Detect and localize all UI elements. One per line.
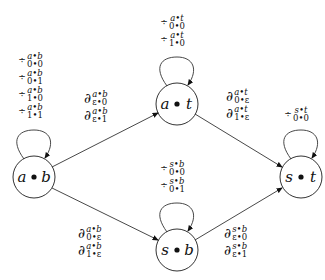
label-sub: 1•1: [27, 111, 43, 119]
edge-label-ab-sb: ∂a•b0•ε ∂a•b1•ε: [78, 225, 102, 259]
divide-icon: ÷: [18, 107, 26, 116]
edge-ab-sb: [52, 188, 158, 240]
loop-label-ab: ÷a•b0•0 ÷a•b0•1 ÷a•b1•0 ÷a•b1•1: [18, 52, 43, 120]
node-sb-right: b: [169, 242, 209, 258]
partial-icon: ∂: [78, 242, 85, 258]
node-ab-right: b: [26, 169, 66, 185]
label-sub: ε•0: [92, 98, 107, 106]
loop-st: [284, 130, 318, 159]
loop-sb-label-1: ÷s•b0•1: [160, 177, 185, 193]
label-sub: ε•1: [232, 250, 247, 258]
label-sub: ε•0: [232, 233, 247, 241]
partial-icon: ∂: [226, 105, 233, 121]
divide-icon: ÷: [18, 73, 26, 82]
edge-at-st-label-0: ∂a•t0•ε: [226, 88, 249, 104]
loop-at-label-1: ÷a•t1•0: [160, 31, 185, 47]
loop-at-label-0: ÷a•t0•0: [160, 14, 185, 30]
loop-label-st: ÷s•t0•0: [284, 106, 309, 123]
divide-icon: ÷: [160, 18, 168, 27]
divide-icon: ÷: [18, 90, 26, 99]
partial-icon: ∂: [224, 225, 231, 241]
label-sub: 1•0: [169, 39, 185, 47]
loop-at: [160, 57, 194, 86]
label-sub: 0•0: [169, 168, 185, 176]
label-sub: 1•ε: [86, 250, 101, 258]
edge-at-st-label-1: ∂a•t1•ε: [226, 105, 249, 121]
divide-icon: ÷: [18, 56, 26, 65]
node-st-right: t: [293, 169, 325, 185]
edge-label-at-st: ∂a•t0•ε ∂a•t1•ε: [226, 88, 249, 122]
label-sub: 0•1: [27, 77, 43, 85]
loop-label-sb: ÷s•b0•0 ÷s•b0•1: [160, 160, 185, 194]
loop-sb-label-0: ÷s•b0•0: [160, 160, 185, 176]
partial-icon: ∂: [78, 225, 85, 241]
loop-label-at: ÷a•t0•0 ÷a•t1•0: [160, 14, 185, 48]
label-sub: 0•1: [169, 185, 185, 193]
loop-st-label-0: ÷s•t0•0: [284, 106, 309, 122]
edge-sb-st-label-1: ∂s•bε•1: [224, 242, 247, 258]
label-sub: 0•0: [293, 114, 309, 122]
partial-icon: ∂: [84, 90, 91, 106]
divide-icon: ÷: [160, 181, 168, 190]
loop-ab-label-2: ÷a•b1•0: [18, 86, 43, 102]
edge-label-ab-at: ∂a•bε•0 ∂a•bε•1: [84, 90, 108, 124]
partial-icon: ∂: [224, 242, 231, 258]
loop-ab: [17, 130, 51, 159]
loop-ab-label-0: ÷a•b0•0: [18, 52, 43, 68]
divide-icon: ÷: [284, 110, 292, 119]
edge-ab-sb-label-1: ∂a•b1•ε: [78, 242, 102, 258]
label-sub: ε•1: [92, 115, 107, 123]
loop-ab-label-3: ÷a•b1•1: [18, 103, 43, 119]
label-sub: 1•ε: [234, 113, 249, 121]
edge-ab-at-label-0: ∂a•bε•0: [84, 90, 108, 106]
loop-sb: [160, 203, 194, 232]
label-sub: 1•0: [27, 94, 43, 102]
label-sub: 0•ε: [86, 233, 101, 241]
partial-icon: ∂: [84, 107, 91, 123]
label-sub: 0•0: [169, 22, 185, 30]
label-sub: 0•0: [27, 60, 43, 68]
divide-icon: ÷: [160, 35, 168, 44]
label-sub: 0•ε: [234, 96, 249, 104]
edge-ab-sb-label-0: ∂a•b0•ε: [78, 225, 102, 241]
partial-icon: ∂: [226, 88, 233, 104]
edge-sb-st-label-0: ∂s•bε•0: [224, 225, 247, 241]
edge-label-sb-st: ∂s•bε•0 ∂s•bε•1: [224, 225, 247, 259]
loop-ab-label-1: ÷a•b0•1: [18, 69, 43, 85]
divide-icon: ÷: [160, 164, 168, 173]
edge-ab-at-label-1: ∂a•bε•1: [84, 107, 108, 123]
node-at-right: t: [169, 96, 209, 112]
